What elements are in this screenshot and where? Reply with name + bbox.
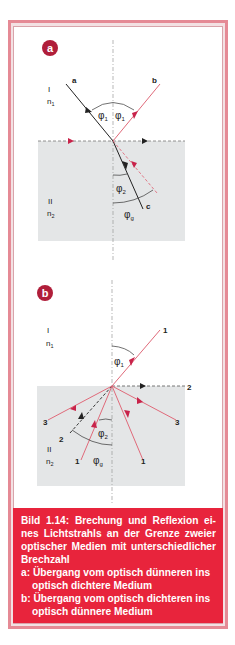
caption-item-a: a: Übergang vom optisch dünneren ins [21, 566, 216, 579]
ray-label-1-left: 1 [75, 457, 80, 466]
medium-1-label: I [47, 326, 49, 335]
medium-2-label: II [48, 197, 52, 206]
ray-label-c: c [146, 202, 151, 211]
ray-label-3-left: 3 [43, 418, 48, 427]
figure-caption: Bild 1.14: Brechung und Reflexion ei- ne… [13, 508, 223, 623]
angle-label-phi1-left: φ1 [98, 110, 108, 122]
medium-2-label: II [47, 445, 51, 454]
caption-line: nes Lichtstrahls an der Grenze zweier [21, 527, 216, 540]
angle-label-phi1: φ1 [114, 356, 124, 368]
angle-arc-phi1 [112, 346, 134, 355]
ray-label-2-right: 2 [187, 383, 192, 392]
ray-label-a: a [72, 76, 77, 85]
caption-item-a-cont: optisch dichtere Medium [21, 579, 216, 592]
caption-item-b: b: Übergang vom optisch dichteren ins [21, 592, 216, 605]
ray-label-2-left: 2 [59, 435, 64, 444]
ray-label-1-right: 1 [141, 457, 146, 466]
caption-line: Bild 1.14: Brechung und Reflexion ei- [21, 514, 216, 527]
medium-1-index: n1 [47, 97, 55, 107]
medium-1-label: I [48, 85, 50, 94]
panel-a: a a b c I n1 II n2 [38, 40, 185, 262]
medium-1-index: n1 [46, 339, 54, 349]
arrow-icon [85, 107, 92, 113]
caption-item-b-cont: optisch dünnere Medium [21, 605, 216, 618]
medium-2-region [38, 141, 185, 241]
caption-line: Brechzahl [21, 553, 216, 566]
caption-line: optischer Medien mit unterschiedlicher [21, 540, 216, 553]
panel-b: b 1 2 3 3 2 1 1 [37, 280, 192, 505]
ray-label-3-right: 3 [175, 418, 180, 427]
ray-label-b: b [152, 76, 157, 85]
badge-b-label: b [42, 287, 49, 299]
badge-a-label: a [47, 42, 54, 54]
ray-a [66, 84, 113, 141]
angle-label-phi1-right: φ1 [115, 110, 125, 122]
ray-label-1-top: 1 [163, 326, 168, 335]
arrow-icon [132, 111, 138, 119]
